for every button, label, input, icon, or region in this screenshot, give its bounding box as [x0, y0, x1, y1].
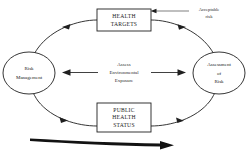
arrowhead-center-right	[178, 69, 187, 75]
assessment-of-risk-line-1: Assessment	[207, 62, 231, 67]
arrowhead-center-left	[62, 69, 71, 75]
health-targets-line-1: HEALTH	[112, 13, 135, 19]
center-label-line-1: Assess	[117, 62, 130, 67]
diagram-canvas: HEALTH TARGETS PUBLIC HEALTH STATUS Risk…	[0, 0, 248, 155]
public-health-status-line-3: STATUS	[113, 122, 135, 128]
public-health-status-line-1: PUBLIC	[113, 107, 134, 113]
assessment-of-risk-line-2: of	[217, 71, 222, 76]
acceptable-risk-line-2: risk	[206, 14, 214, 19]
public-health-status-line-2: HEALTH	[112, 114, 135, 120]
arrowhead-top-right	[178, 24, 187, 30]
arrowhead-top-left	[62, 24, 71, 30]
risk-management-line-1: Risk	[24, 66, 34, 71]
center-label-line-2: Environmental	[109, 70, 139, 75]
center-label-line-3: Exposure	[115, 78, 133, 83]
health-targets-line-2: TARGETS	[111, 21, 137, 27]
progress-thick-arrow	[30, 139, 174, 150]
acceptable-risk-line-1: Acceptable	[199, 7, 220, 12]
assessment-of-risk-line-3: Risk	[214, 79, 224, 84]
risk-management-ellipse	[3, 52, 55, 94]
cycle-diagram: HEALTH TARGETS PUBLIC HEALTH STATUS Risk…	[0, 0, 248, 155]
risk-management-line-2: Management	[16, 75, 43, 80]
arrowhead-bottom-left	[60, 117, 69, 123]
